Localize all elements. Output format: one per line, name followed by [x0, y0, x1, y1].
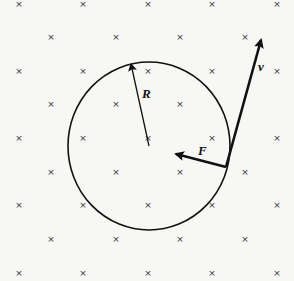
field-cross-icon: × [273, 66, 281, 76]
field-cross-icon: × [112, 99, 120, 109]
field-cross-icon: × [208, 66, 216, 76]
magnetic-field-diagram: ××××××××××××××××××××××××××××××××××××××××… [0, 0, 294, 281]
field-cross-icon: × [79, 66, 87, 76]
radius-label: R [141, 86, 151, 101]
field-cross-icon: × [79, 268, 87, 278]
field-cross-icon: × [176, 99, 184, 109]
field-cross-icon: × [15, 133, 23, 143]
field-cross-icon: × [47, 99, 55, 109]
velocity-vector [226, 40, 261, 167]
field-cross-icon: × [79, 200, 87, 210]
field-cross-icon: × [15, 0, 23, 9]
field-cross-icon: × [112, 234, 120, 244]
field-cross-icon: × [15, 268, 23, 278]
field-cross-icon: × [273, 200, 281, 210]
field-cross-icon: × [144, 268, 152, 278]
field-cross-icon: × [273, 268, 281, 278]
force-label: F [197, 143, 207, 158]
field-cross-icon: × [208, 133, 216, 143]
field-cross-icon: × [47, 32, 55, 42]
field-cross-icon: × [144, 66, 152, 76]
field-cross-icon: × [112, 32, 120, 42]
field-cross-icon: × [241, 234, 249, 244]
field-cross-icon: × [176, 234, 184, 244]
field-cross-icon: × [176, 32, 184, 42]
field-cross-icon: × [15, 66, 23, 76]
field-cross-icon: × [273, 0, 281, 9]
field-cross-icon: × [176, 167, 184, 177]
field-cross-icon: × [112, 167, 120, 177]
velocity-label: v [258, 59, 264, 74]
radius-vector [131, 64, 149, 146]
field-cross-icon: × [79, 133, 87, 143]
field-cross-icon: × [15, 200, 23, 210]
field-cross-icon: × [208, 0, 216, 9]
field-cross-icon: × [144, 200, 152, 210]
field-cross-icon: × [241, 167, 249, 177]
field-cross-icon: × [47, 234, 55, 244]
field-cross-icon: × [144, 0, 152, 9]
field-cross-icon: × [79, 0, 87, 9]
field-cross-icon: × [47, 167, 55, 177]
field-cross-icon: × [208, 268, 216, 278]
field-cross-icon: × [273, 133, 281, 143]
field-cross-icon: × [241, 32, 249, 42]
